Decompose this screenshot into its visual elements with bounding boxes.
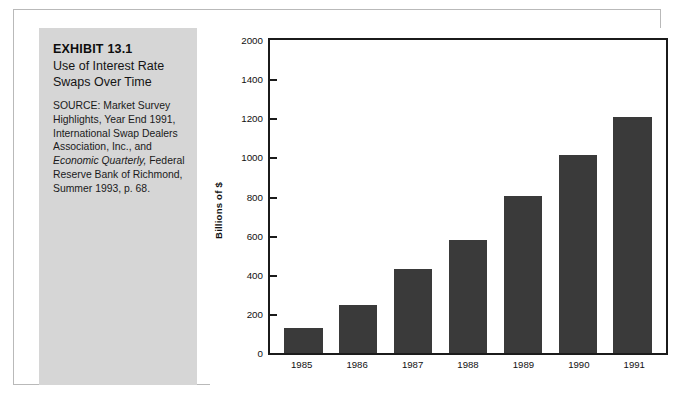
bar-slot	[331, 40, 386, 353]
x-axis-tick-label: 1988	[440, 359, 495, 370]
y-axis-tick-label: 800	[247, 191, 263, 202]
x-axis-tick-label: 1987	[385, 359, 440, 370]
exhibit-figure: EXHIBIT 13.1 Use of Interest Rate Swaps …	[0, 0, 691, 401]
source-text-italic: Economic Quarterly,	[53, 155, 146, 166]
bar-slot	[276, 40, 331, 353]
x-axis-tick-label: 1985	[274, 359, 329, 370]
y-axis-tick-label: 2000	[241, 35, 263, 46]
bar-slot	[441, 40, 496, 353]
exhibit-number: EXHIBIT 13.1	[53, 42, 185, 56]
bar-1989	[504, 196, 542, 353]
bar-1987	[394, 269, 432, 354]
y-axis-tick-label: 200	[247, 308, 263, 319]
caption-panel: EXHIBIT 13.1 Use of Interest Rate Swaps …	[39, 28, 197, 385]
y-axis-tick-label: 0	[258, 348, 263, 359]
x-axis-tick-label: 1986	[329, 359, 384, 370]
y-axis-tick-label: 1200	[241, 113, 263, 124]
bar-1985	[284, 328, 322, 353]
bar-1990	[559, 155, 597, 353]
y-axis-tick-label: 400	[247, 269, 263, 280]
x-axis-tick-label: 1990	[551, 359, 606, 370]
bar-slot	[386, 40, 441, 353]
x-axis-labels: 1985198619871988198919901991	[268, 359, 668, 370]
bar-slot	[605, 40, 660, 353]
x-axis-tick-label: 1991	[607, 359, 662, 370]
figure-frame: EXHIBIT 13.1 Use of Interest Rate Swaps …	[13, 9, 661, 385]
source-text-lead: SOURCE: Market Survey Highlights, Year E…	[53, 100, 178, 152]
x-axis-tick-label: 1989	[496, 359, 551, 370]
bar-slot	[495, 40, 550, 353]
y-axis-title: Billions of $	[210, 156, 226, 266]
bar-1991	[613, 117, 651, 353]
bar-1988	[449, 240, 487, 353]
y-axis-tick-label: 1000	[241, 152, 263, 163]
y-axis-tick-label: 1400	[241, 74, 263, 85]
bar-slot	[550, 40, 605, 353]
exhibit-title: Use of Interest Rate Swaps Over Time	[53, 59, 185, 90]
chart-panel: Billions of $ 20001400120010008006004002…	[210, 28, 670, 385]
y-axis-tick-label: 600	[247, 230, 263, 241]
source-note: SOURCE: Market Survey Highlights, Year E…	[53, 99, 185, 196]
bar-series	[270, 40, 666, 353]
bar-1986	[339, 305, 377, 354]
plot-area: 20001400120010008006004002000	[268, 38, 668, 355]
